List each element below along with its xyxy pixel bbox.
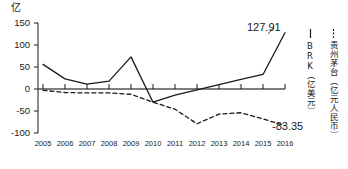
dashed-line-icon [328, 28, 339, 39]
y-axis-tick-label: -100 [2, 128, 30, 138]
legend-item-moutai: 贵州茅台（亿元人民币） [323, 28, 343, 140]
line-chart-figure: 亿 [0, 0, 348, 169]
legend-item-brk: BRK（亿美元） [300, 28, 320, 116]
x-axis-tick-label: 2016 [272, 139, 298, 148]
y-axis-tick-label: 50 [2, 62, 30, 72]
legend-label-brk: BRK（亿美元） [305, 41, 315, 116]
y-axis-tick-label: -50 [2, 106, 30, 116]
solid-line-icon [305, 28, 316, 39]
data-label-moutai-last: -83.35 [272, 120, 303, 132]
x-axis-ticks [43, 84, 285, 89]
y-axis-ticks [34, 23, 38, 133]
data-label-brk-last: 127.91 [247, 21, 281, 33]
y-axis-tick-label: 100 [2, 40, 30, 50]
legend-label-moutai: 贵州茅台（亿元人民币） [328, 41, 338, 140]
series-line-brk [43, 33, 285, 102]
y-axis-tick-label: 0 [2, 84, 30, 94]
y-axis-tick-label: 150 [2, 18, 30, 28]
series-line-moutai [43, 90, 285, 125]
